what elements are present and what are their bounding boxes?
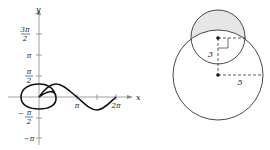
tick-neg-pi: −π: [24, 135, 35, 143]
svg-text:2: 2: [26, 77, 32, 85]
x-axis-label: x: [136, 93, 141, 102]
svg-text:2: 2: [22, 35, 28, 43]
tick-neg-pi-2-num: π: [26, 109, 32, 117]
svg-text:−: −: [18, 110, 24, 118]
label-3: 3: [208, 50, 213, 59]
tick-pi-2-num: π: [26, 68, 32, 76]
tick-pi: π: [26, 52, 32, 60]
figure: y x 3π 2 π π 2 − π 2 −π π 2π: [0, 0, 270, 150]
svg-text:2: 2: [26, 118, 32, 126]
x-axis-arrow-icon: [127, 95, 133, 99]
right-diagram: 3 5: [173, 5, 263, 120]
tick-3pi-2-num: 3π: [20, 26, 29, 34]
tick-x-2pi: 2π: [110, 102, 120, 110]
label-5: 5: [237, 78, 242, 87]
left-graph: y x 3π 2 π π 2 − π 2 −π π 2π: [8, 5, 141, 145]
y-axis-label: y: [35, 5, 41, 14]
tick-x-pi: π: [74, 102, 80, 110]
